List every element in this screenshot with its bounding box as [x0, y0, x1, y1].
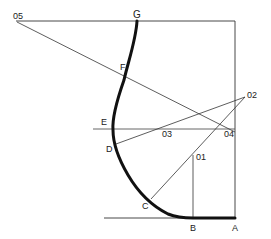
construction-diagram: 05 G F E D C B A 01 02 03 04 — [0, 0, 271, 239]
label-d: D — [106, 144, 113, 154]
profile-curve — [113, 21, 235, 218]
label-b: B — [190, 223, 196, 233]
label-g: G — [133, 9, 141, 20]
label-c: C — [142, 201, 149, 211]
label-e: E — [101, 117, 107, 127]
label-04: 04 — [224, 129, 234, 139]
label-01: 01 — [196, 152, 206, 162]
label-a: A — [232, 223, 238, 233]
label-05: 05 — [13, 11, 23, 21]
label-f: F — [120, 62, 126, 72]
radius-line-02-c — [151, 97, 245, 199]
label-02: 02 — [247, 90, 257, 100]
label-03: 03 — [162, 129, 172, 139]
